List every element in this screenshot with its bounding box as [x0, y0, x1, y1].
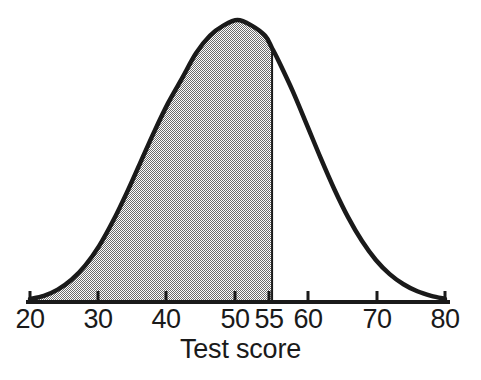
normal-distribution-figure: 2030405055607080 Test score: [0, 0, 481, 380]
tick-label-60: 60: [293, 306, 322, 333]
tick-label-55: 55: [254, 306, 283, 333]
tick-label-70: 70: [362, 306, 391, 333]
tick-label-40: 40: [151, 306, 180, 333]
tick-label-30: 30: [83, 306, 112, 333]
x-axis-title: Test score: [0, 336, 481, 363]
tick-label-80: 80: [430, 306, 459, 333]
tick-label-20: 20: [15, 306, 44, 333]
tick-label-50: 50: [220, 306, 249, 333]
shaded-area-under-curve: [30, 20, 273, 302]
